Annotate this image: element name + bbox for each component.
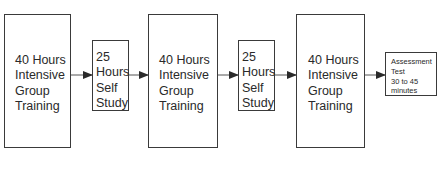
node-assessment-test: Assessment Test 30 to 45 minutes — [385, 52, 437, 96]
node-label: 25 Hours Self Study — [242, 50, 275, 111]
node-self-study-2: 25 Hours Self Study — [238, 40, 275, 111]
node-group-training-3: 40 Hours Intensive Group Training — [296, 14, 365, 148]
node-self-study-1: 25 Hours Self Study — [92, 40, 129, 111]
node-label: 40 Hours Intensive Group Training — [15, 53, 66, 114]
node-group-training-2: 40 Hours Intensive Group Training — [148, 14, 218, 148]
node-label: 25 Hours Self Study — [96, 50, 129, 111]
node-label: Assessment Test 30 to 45 minutes — [391, 57, 432, 96]
node-group-training-1: 40 Hours Intensive Group Training — [4, 14, 71, 148]
node-label: 40 Hours Intensive Group Training — [308, 53, 359, 114]
node-label: 40 Hours Intensive Group Training — [159, 53, 210, 114]
